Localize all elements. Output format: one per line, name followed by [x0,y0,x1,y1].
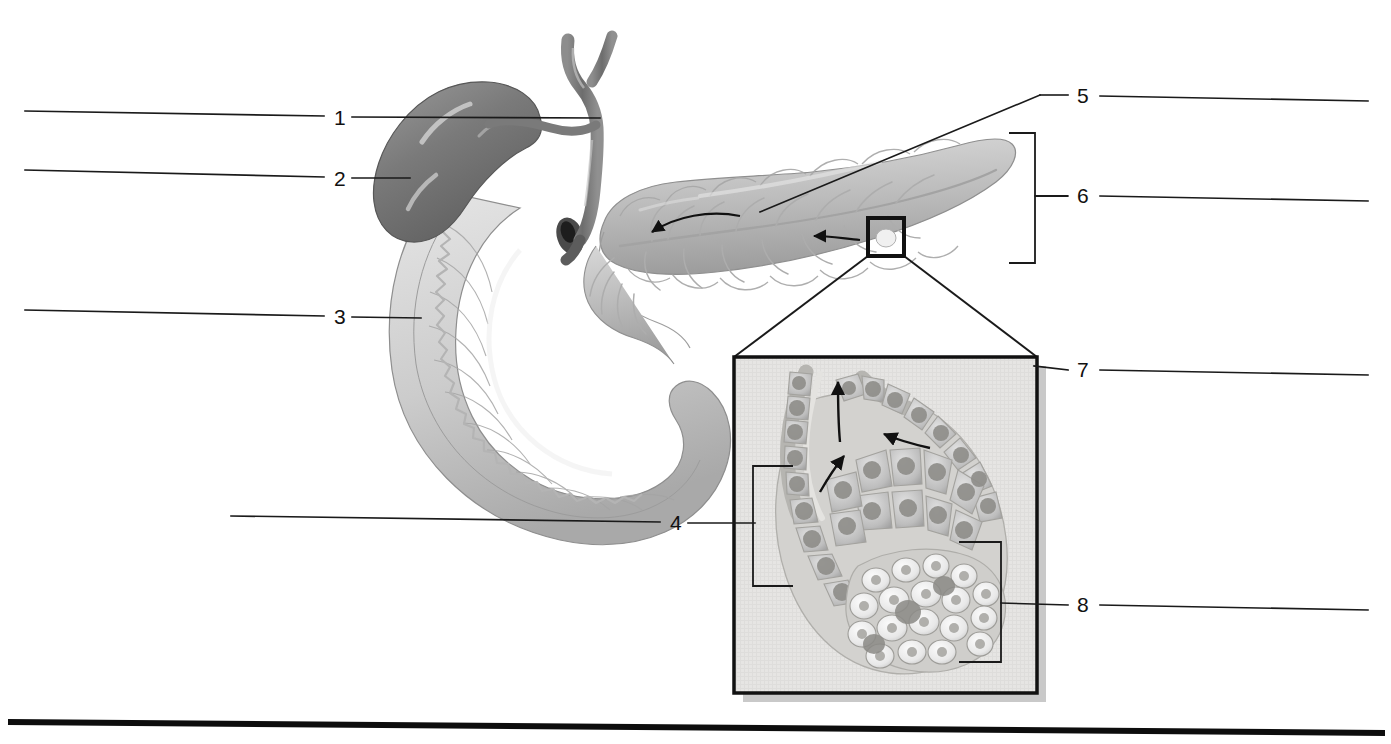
answer-line-5 [1100,96,1368,101]
label-number-4: 4 [670,512,682,533]
label-number-2: 2 [334,168,346,189]
label-number-1: 1 [334,107,346,128]
label-number-3: 3 [334,306,346,327]
label-number-7: 7 [1077,359,1089,380]
answer-line-7 [1100,370,1368,375]
answer-line-4 [231,516,660,522]
annotation-lines-layer [0,0,1391,744]
leader-1 [352,117,600,118]
leader-7 [1034,366,1068,370]
leader-3 [352,317,421,318]
answer-line-3 [25,310,324,316]
answer-line-8 [1100,605,1368,610]
leader-5-angled [760,95,1040,212]
leader-8 [1001,603,1068,605]
pancreas-extent-bracket [1009,133,1068,263]
answer-line-2 [25,170,324,177]
answer-line-6 [1100,196,1368,201]
label-number-6: 6 [1077,185,1089,206]
bottom-rule [8,722,1385,733]
answer-line-1 [25,111,324,116]
acinus-bracket [753,466,793,586]
islet-box [959,542,1001,662]
label-number-8: 8 [1077,594,1089,615]
pancreas-labeling-figure: 1 2 3 4 5 6 7 8 [0,0,1391,744]
label-number-5: 5 [1077,85,1089,106]
